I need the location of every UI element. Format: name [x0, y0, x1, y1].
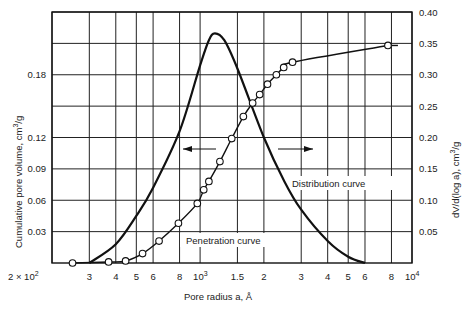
- distribution-curve-label: Distribution curve: [292, 178, 365, 189]
- data-point-circle: [249, 100, 256, 107]
- x-tick-label: 8: [177, 271, 182, 282]
- left-y-tick-label: 0.12: [28, 132, 47, 143]
- x-tick-label: 6: [150, 271, 155, 282]
- x-tick-label: 4: [113, 271, 118, 282]
- right-y-tick-label: 0.05: [419, 226, 438, 237]
- data-point-circle: [69, 260, 76, 267]
- penetration-curve-label: Penetration curve: [186, 235, 260, 246]
- data-point-circle: [273, 71, 280, 78]
- data-point-circle: [139, 250, 146, 257]
- data-point-circle: [280, 64, 287, 71]
- x-tick-label: 5: [346, 271, 351, 282]
- left-y-axis-title: Cumulative pore volume, cm3/g: [12, 116, 24, 248]
- right-y-tick-label: 0.20: [419, 132, 438, 143]
- right-y-tick-label: 0.40: [419, 7, 438, 18]
- data-point-circle: [105, 259, 112, 266]
- right-y-tick-label: 0.10: [419, 195, 438, 206]
- x-tick-label: 3: [87, 271, 92, 282]
- pore-size-chart: 2 × 102345681031.5234568104 0.030.060.09…: [0, 0, 465, 317]
- left-y-tick-label: 0.03: [28, 226, 47, 237]
- data-point-circle: [156, 238, 163, 245]
- data-point-circle: [385, 42, 392, 49]
- left-y-axis-ticks: 0.030.060.090.120.18: [28, 69, 47, 237]
- x-axis-title: Pore radius a, Å: [184, 291, 253, 302]
- x-axis-ticks: 2 × 102345681031.5234568104: [8, 270, 420, 282]
- data-point-circle: [206, 178, 213, 185]
- penetration-curve-line: [73, 46, 388, 264]
- right-y-tick-label: 0.30: [419, 69, 438, 80]
- x-tick-label: 2 × 102: [8, 270, 39, 282]
- data-point-circle: [289, 59, 296, 66]
- data-point-circle: [240, 113, 247, 120]
- x-tick-label: 4: [325, 271, 330, 282]
- left-y-tick-label: 0.06: [28, 195, 47, 206]
- right-arrow-icon: [278, 146, 313, 152]
- right-y-axis-title: dV/d(log a), cm3/g: [449, 142, 461, 218]
- x-tick-label: 1.5: [231, 271, 244, 282]
- x-tick-label: 104: [405, 270, 420, 282]
- right-y-tick-label: 0.15: [419, 163, 438, 174]
- x-tick-label: 5: [134, 271, 139, 282]
- data-point-circle: [175, 220, 182, 227]
- right-y-axis-ticks: 0.050.100.150.200.250.300.350.40: [419, 7, 438, 238]
- data-point-circle: [256, 91, 263, 98]
- data-point-circle: [217, 158, 224, 165]
- data-point-circle: [122, 258, 129, 265]
- data-point-circle: [228, 135, 235, 142]
- data-point-circle: [200, 186, 207, 193]
- x-tick-label: 2: [261, 271, 266, 282]
- x-tick-label: 3: [299, 271, 304, 282]
- left-arrow-icon: [183, 146, 216, 152]
- x-tick-label: 103: [193, 270, 208, 282]
- right-y-tick-label: 0.35: [419, 38, 438, 49]
- data-point-circle: [194, 200, 201, 207]
- x-tick-label: 8: [389, 271, 394, 282]
- right-y-tick-label: 0.25: [419, 101, 438, 112]
- x-tick-label: 6: [362, 271, 367, 282]
- left-y-tick-label: 0.09: [28, 163, 47, 174]
- left-y-tick-label: 0.18: [28, 69, 47, 80]
- data-point-circle: [264, 81, 271, 88]
